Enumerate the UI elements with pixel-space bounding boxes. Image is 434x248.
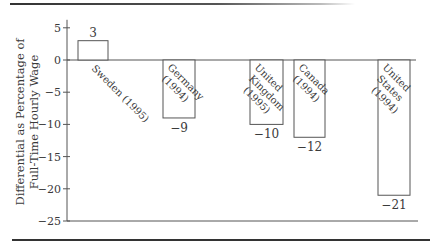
y-axis-label-line: Differential as Percentage of [13,38,27,206]
y-tick-label: 0 [54,54,61,67]
value-label: −12 [297,140,322,154]
value-label: 3 [89,26,97,40]
y-tick-label: −25 [38,215,61,228]
y-tick-label: −10 [38,118,61,131]
category-label-line: Sweden (1995) [90,63,152,125]
value-label: −21 [381,198,406,212]
y-axis-label-line: Full-Time Hourly Wage [27,55,41,190]
bar-chart: 50−5−10−15−20−25Differential as Percenta… [0,0,434,248]
top-rule [10,3,355,5]
category-label: UnitedKingdom(1995) [236,62,296,122]
y-tick-label: 5 [54,22,61,35]
value-label: −9 [170,121,188,135]
bar-0 [78,41,108,60]
category-label: Sweden (1995) [90,63,152,125]
value-label: −10 [254,127,279,141]
y-tick-label: −5 [45,86,61,99]
y-axis-label: Differential as Percentage ofFull-Time H… [13,38,41,206]
bottom-rule [12,239,430,241]
y-tick-label: −15 [38,151,61,164]
y-tick-label: −20 [38,183,61,196]
chart-plot-area: 50−5−10−15−20−25Differential as Percenta… [0,0,434,248]
